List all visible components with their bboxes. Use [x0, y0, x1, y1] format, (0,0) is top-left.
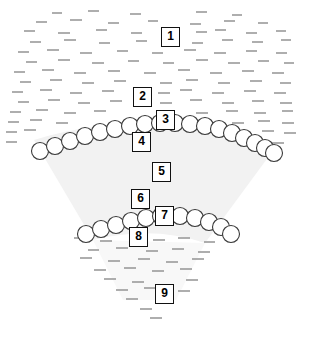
label-box-2[interactable]: 2 [133, 87, 152, 107]
label-box-3[interactable]: 3 [156, 110, 175, 130]
label-box-7[interactable]: 7 [155, 206, 174, 226]
diagram-figure: 1 2 3 4 5 6 7 8 9 [0, 0, 309, 341]
label-box-4[interactable]: 4 [132, 132, 151, 152]
label-box-9[interactable]: 9 [155, 284, 174, 304]
label-box-6[interactable]: 6 [131, 189, 150, 209]
label-box-1[interactable]: 1 [161, 27, 180, 47]
label-box-8[interactable]: 8 [129, 227, 148, 247]
label-box-5[interactable]: 5 [152, 162, 171, 182]
